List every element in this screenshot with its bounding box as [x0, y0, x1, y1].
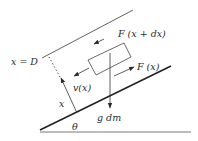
incline-chain-diagram: x = D F (x + dx) F (x) v(x) x g dm θ — [0, 0, 198, 141]
mass-element-box — [88, 43, 131, 75]
label-angle: θ — [72, 121, 78, 132]
force-top-arrow — [94, 39, 104, 44]
label-velocity: v(x) — [73, 82, 91, 93]
force-bottom-arrow — [114, 67, 134, 76]
label-force-bottom: F (x) — [136, 61, 160, 72]
diagram-canvas: x = D F (x + dx) F (x) v(x) x g dm θ — [0, 0, 198, 141]
label-gravity: g dm — [97, 112, 121, 123]
label-force-top: F (x + dx) — [117, 28, 166, 39]
velocity-arrow — [74, 68, 89, 76]
label-x-eq-D: x = D — [11, 56, 38, 67]
dotted-extension — [49, 57, 60, 77]
label-position: x — [59, 98, 65, 109]
